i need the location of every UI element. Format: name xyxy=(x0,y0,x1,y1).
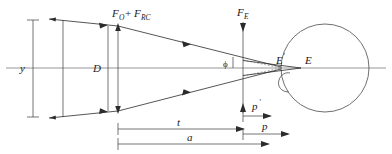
incoming-ray-lower xyxy=(49,111,118,118)
label-dimension-p: p xyxy=(261,120,268,132)
label-image-point-E-prime-mark: ′ xyxy=(283,52,285,61)
label-lens-power-F: F xyxy=(111,7,119,19)
beam-lower-midarrow xyxy=(99,108,108,114)
label-dimension-p-prime: p xyxy=(251,100,258,112)
label-lens-power-plus: + xyxy=(125,7,131,19)
label-dimension-p-prime-mark: ′ xyxy=(259,98,261,107)
a-dimension-arrowhead xyxy=(261,141,270,147)
diagram-canvas: y D F O + F RC xyxy=(0,0,392,154)
ray-diagram-figure: y D F O + F RC xyxy=(0,0,392,154)
beam-upper-midarrow xyxy=(99,23,108,29)
label-eye-power-F-subscript-E: E xyxy=(243,12,249,21)
eye-ray-upper xyxy=(243,61,301,69)
converging-ray-lower-arrowhead xyxy=(182,89,191,95)
label-convergence-angle-phi: ϕ xyxy=(223,59,228,69)
cornea-bump-path xyxy=(278,73,290,92)
p-prime-dimension-arrowhead xyxy=(263,113,272,119)
label-lens-power-F2-subscript-RC: RC xyxy=(140,13,152,22)
label-eye-power-F: F xyxy=(236,6,244,18)
label-dimension-a: a xyxy=(187,131,193,143)
label-dimension-t: t xyxy=(177,116,181,128)
label-image-point-E-prime: E xyxy=(275,54,283,66)
D-arrowhead-bottom xyxy=(115,106,121,114)
incoming-ray-upper xyxy=(49,19,118,26)
converging-ray-upper-arrowhead xyxy=(182,41,191,47)
label-lens-power-F2: F xyxy=(133,7,141,19)
eye-ray-lower xyxy=(243,68,301,76)
label-eye-point-E: E xyxy=(304,54,312,66)
converging-ray-upper xyxy=(118,26,281,67)
label-object-height-y: y xyxy=(19,62,25,74)
p-dimension-arrowhead xyxy=(281,131,290,137)
label-beam-diameter-D: D xyxy=(92,62,101,74)
D-arrowhead-top xyxy=(115,23,121,31)
eye-lens-plane-arrowhead-top xyxy=(240,23,246,32)
t-dimension-arrowhead xyxy=(236,126,245,132)
